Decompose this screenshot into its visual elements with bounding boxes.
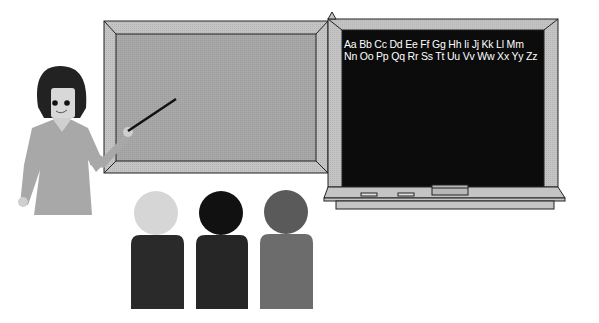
chalkboard-text: Aa Bb Cc Dd Ee Ff Gg Hh Ii Jj Kk Ll Mm N… [344, 38, 537, 62]
student-2 [196, 191, 248, 309]
left-board [104, 21, 328, 173]
student-3 [260, 190, 313, 309]
alphabet-line-1: Aa Bb Cc Dd Ee Ff Gg Hh Ii Jj Kk Ll Mm [344, 38, 537, 50]
eraser [432, 185, 468, 195]
chalk-piece-1 [361, 193, 377, 196]
student-1 [131, 191, 184, 309]
alphabet-line-2: Nn Oo Pp Qq Rr Ss Tt Uu Vv Ww Xx Yy Zz [344, 50, 537, 62]
chalk-piece-2 [398, 193, 414, 196]
